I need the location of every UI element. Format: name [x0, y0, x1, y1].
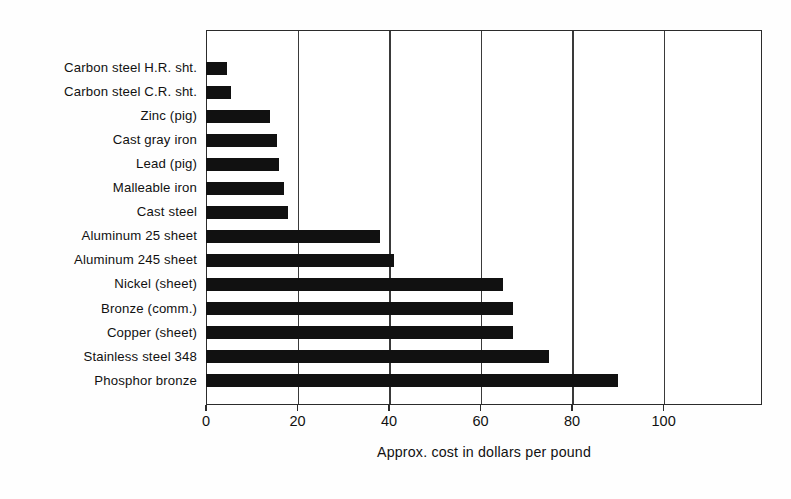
category-label: Lead (pig) [0, 157, 197, 171]
category-label: Nickel (sheet) [0, 277, 197, 291]
bar [206, 182, 284, 195]
bar-chart-figure: Carbon steel H.R. sht.Carbon steel C.R. … [0, 0, 791, 499]
bar [206, 326, 513, 339]
category-label: Carbon steel C.R. sht. [0, 85, 197, 99]
tick-label-80: 80 [564, 413, 580, 429]
tick-label-0: 0 [202, 413, 210, 429]
tick-mark-80 [571, 405, 573, 411]
bar [206, 206, 288, 219]
value-axis-ticks: 020406080100 [206, 405, 762, 445]
bar [206, 86, 231, 99]
category-label: Copper (sheet) [0, 326, 197, 340]
category-label: Zinc (pig) [0, 109, 197, 123]
tick-mark-20 [297, 405, 299, 411]
bar [206, 62, 227, 75]
tick-mark-60 [480, 405, 482, 411]
tick-mark-100 [663, 405, 665, 411]
bar [206, 302, 513, 315]
category-label: Aluminum 245 sheet [0, 253, 197, 267]
category-label: Bronze (comm.) [0, 302, 197, 316]
category-axis-labels: Carbon steel H.R. sht.Carbon steel C.R. … [0, 30, 197, 405]
category-label: Cast steel [0, 205, 197, 219]
category-label: Stainless steel 348 [0, 350, 197, 364]
bar [206, 230, 380, 243]
bar [206, 374, 618, 387]
bar [206, 110, 270, 123]
bar-series [206, 30, 762, 405]
bar [206, 158, 279, 171]
bar [206, 134, 277, 147]
tick-mark-40 [388, 405, 390, 411]
bar [206, 350, 549, 363]
bar [206, 254, 394, 267]
category-label: Malleable iron [0, 181, 197, 195]
tick-mark-0 [205, 405, 207, 411]
tick-label-40: 40 [381, 413, 397, 429]
tick-label-60: 60 [472, 413, 488, 429]
x-axis-title: Approx. cost in dollars per pound [206, 444, 762, 460]
category-label: Aluminum 25 sheet [0, 229, 197, 243]
bar [206, 278, 503, 291]
category-label: Carbon steel H.R. sht. [0, 61, 197, 75]
category-label: Phosphor bronze [0, 374, 197, 388]
category-label: Cast gray iron [0, 133, 197, 147]
tick-label-20: 20 [289, 413, 305, 429]
tick-label-100: 100 [652, 413, 676, 429]
